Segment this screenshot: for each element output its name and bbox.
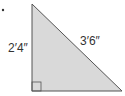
right-triangle-shape [32,4,122,91]
vertical-leg-label: 2′4″ [8,42,28,54]
hypotenuse-label: 3′6″ [80,35,100,47]
bullet-dot [2,9,4,11]
